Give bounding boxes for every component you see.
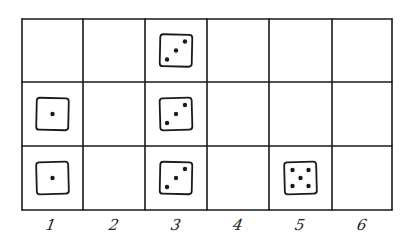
pip-icon [50, 112, 54, 116]
pip-icon [165, 121, 169, 125]
die-face-1 [36, 98, 69, 131]
pip-icon [174, 112, 178, 116]
die-face-5 [284, 162, 317, 195]
pip-icon [183, 103, 187, 107]
dice-grid [0, 0, 406, 240]
die-face-3 [160, 162, 193, 195]
column-label-6: 6 [345, 216, 378, 234]
pip-icon [306, 168, 310, 172]
pip-icon [50, 176, 54, 180]
pip-icon [183, 167, 187, 171]
grid-lines [22, 19, 392, 210]
pip-icon [290, 168, 294, 172]
pip-icon [165, 57, 169, 61]
pip-icon [165, 185, 169, 189]
die-face-1 [36, 162, 69, 195]
pip-icon [298, 176, 302, 180]
pip-icon [290, 184, 294, 188]
pip-icon [183, 39, 187, 43]
column-label-5: 5 [283, 216, 316, 234]
dice-layer [36, 34, 317, 194]
pip-icon [174, 48, 178, 52]
column-label-2: 2 [97, 216, 130, 234]
column-label-1: 1 [34, 216, 67, 234]
die-face-3 [160, 34, 193, 67]
pip-icon [306, 184, 310, 188]
die-face-3 [160, 98, 193, 131]
pip-icon [174, 176, 178, 180]
column-label-4: 4 [221, 216, 254, 234]
column-label-3: 3 [159, 216, 192, 234]
